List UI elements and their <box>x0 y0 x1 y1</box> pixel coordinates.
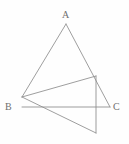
vertex-label-a: A <box>62 10 69 20</box>
vertex-label-b: B <box>5 102 12 112</box>
diagonal-D-to-F <box>22 97 96 133</box>
geometry-figure: A B C <box>0 0 129 144</box>
segment-group <box>22 24 110 133</box>
figure-canvas <box>0 0 129 144</box>
vertex-label-c: C <box>113 102 120 112</box>
side-A-to-C <box>66 24 110 107</box>
